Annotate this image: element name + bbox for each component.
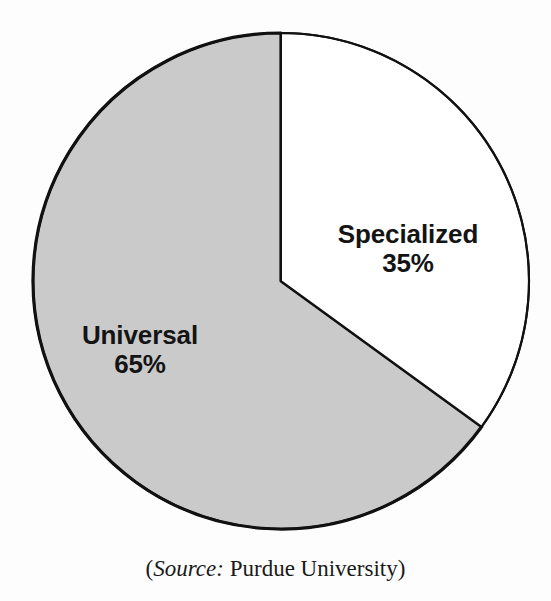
slice-label-universal-value: 65%: [30, 350, 250, 379]
source-caption-organization: Purdue University: [224, 556, 398, 581]
slice-label-specialized-name: Specialized: [288, 220, 528, 249]
source-caption-close-paren: ): [398, 556, 406, 581]
slice-label-universal-name: Universal: [30, 321, 250, 350]
source-caption-source-word: Source:: [153, 556, 224, 581]
slice-label-specialized: Specialized 35%: [288, 220, 528, 278]
pie-chart-figure: Specialized 35% Universal 65% (Source: P…: [0, 0, 551, 601]
slice-label-universal: Universal 65%: [30, 321, 250, 379]
source-caption: (Source: Purdue University): [0, 556, 551, 582]
slice-label-specialized-value: 35%: [288, 249, 528, 278]
pie-chart-graphic: [0, 0, 551, 601]
